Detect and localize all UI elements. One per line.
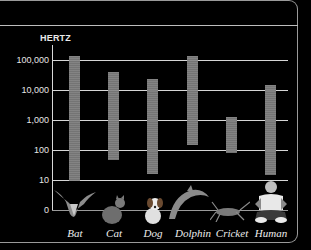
cricket-icon (210, 200, 250, 222)
y-tick-label: 10,000 (21, 85, 49, 95)
bar-dolphin (187, 56, 198, 145)
x-label-dolphin: Dolphin (175, 227, 211, 239)
y-tick-label: 10 (39, 175, 49, 185)
top-divider (0, 25, 298, 26)
bat-icon (52, 188, 98, 220)
x-label-dog: Dog (144, 227, 163, 239)
x-label-bat: Bat (67, 227, 82, 239)
x-label-human: Human (255, 227, 287, 239)
bar-cat (108, 72, 119, 160)
y-tick-label: 100 (34, 145, 49, 155)
y-tick-label: 1,000 (26, 115, 49, 125)
gridline (52, 90, 288, 91)
gridline (52, 120, 288, 121)
human-icon (253, 180, 289, 224)
x-label-cricket: Cricket (216, 227, 248, 239)
y-tick-label: 100,000 (16, 55, 49, 65)
dolphin-icon (165, 185, 211, 221)
bar-human (265, 85, 276, 175)
bar-dog (147, 79, 158, 174)
y-tick-label: 0 (44, 205, 49, 215)
bar-cricket (226, 117, 237, 153)
y-axis-line (52, 45, 53, 211)
gridline (52, 60, 288, 61)
cat-icon (100, 195, 128, 225)
x-label-cat: Cat (106, 227, 122, 239)
dog-icon (139, 195, 167, 225)
y-axis-title: HERTZ (40, 33, 71, 43)
gridline (52, 150, 288, 151)
bar-bat (69, 56, 80, 181)
